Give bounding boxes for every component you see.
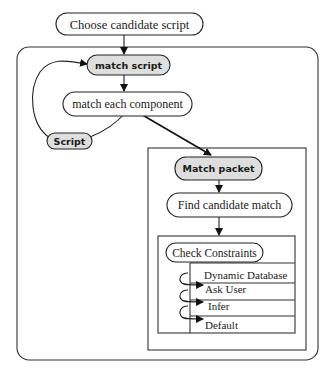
node-label: Match packet — [183, 163, 255, 174]
node-label: Check Constraints — [172, 247, 257, 259]
node-label: Find candidate match — [178, 198, 281, 212]
constraint-source-dynamic-database: Dynamic Database — [204, 269, 287, 281]
node-script: Script — [47, 133, 92, 149]
edge-each-component-to-match-packet — [139, 113, 211, 155]
node-find-candidate-match: Find candidate match — [167, 193, 292, 217]
node-label: match each component — [72, 97, 183, 111]
node-label: Script — [54, 136, 86, 147]
script-matching-flow-diagram: Choose candidate script match script mat… — [0, 0, 333, 374]
node-choose-candidate-script: Choose candidate script — [56, 13, 203, 35]
node-label: Choose candidate script — [70, 18, 190, 32]
constraint-source-default: Default — [205, 319, 238, 331]
constraint-source-ask-user: Ask User — [205, 283, 247, 295]
constraint-source-infer: Infer — [208, 300, 230, 312]
node-check-constraints: Check Constraints — [166, 243, 263, 262]
edge-infer-to-default — [180, 306, 203, 319]
node-label: match script — [95, 60, 163, 71]
edge-each-component-to-script — [90, 113, 125, 137]
node-match-each-component: match each component — [63, 92, 192, 116]
node-match-script: match script — [87, 55, 170, 75]
node-match-packet: Match packet — [175, 157, 262, 180]
